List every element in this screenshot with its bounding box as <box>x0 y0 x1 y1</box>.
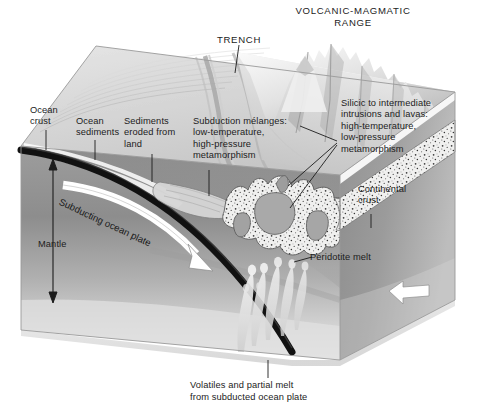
label-sediments-eroded-from-land: Sediments eroded from land <box>124 116 188 150</box>
label-subduction-melanges: Subduction mélanges: low-temperature, hi… <box>193 116 303 162</box>
heading-volcanic-magmatic-range: VOLCANIC-MAGMATIC RANGE <box>288 5 418 29</box>
label-mantle: Mantle <box>38 239 88 250</box>
pluton-central <box>255 193 295 235</box>
label-peridotite-melt: Peridotite melt <box>310 252 400 263</box>
label-ocean-crust: Ocean crust <box>30 105 78 128</box>
diagram-canvas: TRENCH VOLCANIC-MAGMATIC RANGE Ocean cru… <box>0 0 478 416</box>
label-silicic-intrusions: Silicic to intermediate intrusions and l… <box>341 98 465 155</box>
heading-trench: TRENCH <box>203 34 275 46</box>
caption-volatiles-partial-melt: Volatiles and partial melt from subducte… <box>190 379 370 404</box>
label-continental-crust: Continental crust <box>358 184 428 207</box>
